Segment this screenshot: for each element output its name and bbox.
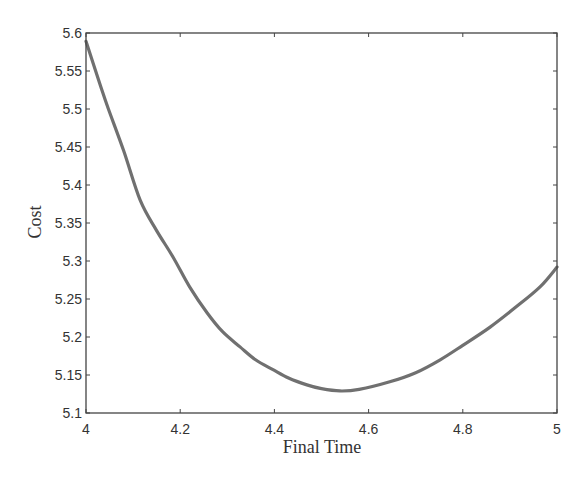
y-tick-label: 5.1: [63, 405, 83, 421]
y-tick-label: 5.6: [63, 25, 83, 41]
x-tick-label: 4.6: [359, 421, 379, 437]
y-tick-label: 5.15: [55, 367, 82, 383]
y-axis-label: Cost: [25, 205, 45, 238]
y-tick-label: 5.55: [55, 63, 82, 79]
x-tick-label: 4.2: [170, 421, 190, 437]
y-tick-label: 5.4: [63, 177, 83, 193]
y-tick-label: 5.3: [63, 253, 83, 269]
x-tick-label: 4.4: [265, 421, 285, 437]
cost-curve: [86, 41, 557, 391]
y-tick-label: 5.35: [55, 215, 82, 231]
cost-vs-final-time-chart: 5.15.155.25.255.35.355.45.455.55.555.6 4…: [0, 0, 585, 481]
y-tick-label: 5.5: [63, 101, 83, 117]
plot-area-frame: [86, 33, 557, 413]
x-tick-label: 5: [553, 421, 561, 437]
x-axis-label: Final Time: [283, 437, 362, 457]
y-tick-label: 5.25: [55, 291, 82, 307]
x-tick-label: 4.8: [453, 421, 473, 437]
y-axis-ticks: 5.15.155.25.255.35.355.45.455.55.555.6: [55, 25, 557, 421]
y-tick-label: 5.45: [55, 139, 82, 155]
x-tick-label: 4: [82, 421, 90, 437]
x-axis-ticks: 44.24.44.64.85: [82, 33, 561, 437]
y-tick-label: 5.2: [63, 329, 83, 345]
